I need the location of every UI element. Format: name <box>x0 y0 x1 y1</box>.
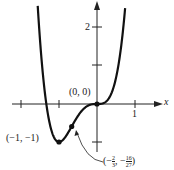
inflection-label-suffix: ) <box>132 155 135 166</box>
inflection-point <box>69 124 74 129</box>
origin-label: (0, 0) <box>69 87 91 97</box>
minimum-point <box>56 139 61 144</box>
inflection-label-prefix: (− <box>103 155 112 166</box>
minimum-label: (−1, −1) <box>6 133 39 143</box>
x-axis-arrow-icon <box>154 101 163 107</box>
x-tick-label-1: 1 <box>132 109 137 119</box>
inflection-label: (−23, −1627) <box>103 155 135 168</box>
leader-arrowhead-icon <box>75 130 80 136</box>
y-axis-arrow-icon <box>94 1 100 10</box>
function-curve <box>38 6 125 142</box>
function-graph: x 1 2 (0, 0) (−1, −1) (−23, −1627) <box>0 0 174 170</box>
inflection-label-mid: , − <box>115 155 126 166</box>
inflection-leader-line <box>77 133 103 162</box>
y-tick-label-2: 2 <box>85 22 90 32</box>
origin-point <box>94 101 99 106</box>
x-axis-label: x <box>164 97 168 107</box>
